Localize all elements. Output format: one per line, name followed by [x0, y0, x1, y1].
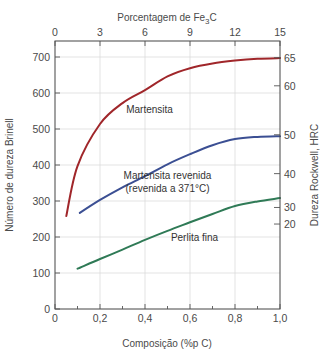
x-tick-label: 1,0: [273, 312, 288, 324]
right-axis-tick-label: 30: [284, 201, 296, 213]
y-tick-label: 100: [32, 267, 50, 279]
x-tick-label: 0,8: [228, 312, 243, 324]
y-tick-label: 500: [32, 123, 50, 135]
y-axis-title: Número de dureza Brinell: [4, 118, 15, 231]
y-tick-label: 0: [44, 303, 50, 315]
x-tick-label: 0,4: [138, 312, 153, 324]
curve-label: Martensita revenida(revenida a 371°C): [124, 170, 212, 194]
top-axis-tick-label: 6: [142, 26, 148, 38]
curve-labels: MartensitaMartensita revenida(revenida a…: [124, 104, 219, 244]
y-tick-label: 200: [32, 231, 50, 243]
right-axis-tick-label: 60: [284, 80, 296, 92]
right-axis-tick-label: 40: [284, 168, 296, 180]
curve-label: Perlita fina: [171, 232, 219, 243]
top-axis-title: Porcentagem de Fe3C: [117, 12, 217, 26]
top-axis-tick-label: 9: [187, 26, 193, 38]
top-axis-tick-label: 0: [52, 26, 58, 38]
hardness-chart: 00,20,40,60,81,0010020030040050060070003…: [0, 0, 329, 360]
top-axis-tick-label: 15: [274, 26, 286, 38]
x-tick-label: 0,2: [93, 312, 108, 324]
x-tick-label: 0: [52, 312, 58, 324]
right-axis-title: Dureza Rockwell, HRC: [309, 124, 320, 226]
top-axis-tick-label: 3: [97, 26, 103, 38]
x-tick-label: 0,6: [183, 312, 198, 324]
right-axis-tick-label: 20: [284, 218, 296, 230]
y-tick-label: 300: [32, 195, 50, 207]
top-axis-tick-label: 12: [229, 26, 241, 38]
x-axis-title: Composição (%p C): [122, 338, 211, 349]
y-tick-label: 700: [32, 51, 50, 63]
y-tick-label: 600: [32, 87, 50, 99]
y-tick-label: 400: [32, 159, 50, 171]
right-axis-tick-label: 50: [284, 129, 296, 141]
right-axis-tick-label: 65: [284, 52, 296, 64]
curve-label: Martensita: [126, 104, 173, 115]
